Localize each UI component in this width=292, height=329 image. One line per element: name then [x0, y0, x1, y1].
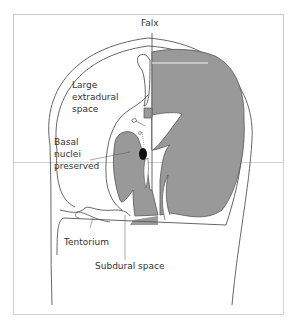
label-subdural-space: Subdural space — [95, 261, 165, 272]
label-falx: Falx — [141, 18, 159, 29]
brain-illustration — [0, 0, 292, 329]
label-extradural-line1: Large — [72, 80, 97, 91]
label-basal-line2: nuclei — [54, 149, 81, 160]
label-tentorium: Tentorium — [64, 237, 109, 248]
diagram: Falx Large extradural space Basal nuclei… — [0, 0, 292, 329]
label-extradural-line2: extradural — [72, 92, 119, 103]
label-extradural-line3: space — [72, 104, 98, 115]
label-basal-line1: Basal — [54, 137, 78, 148]
black-nucleus — [139, 148, 147, 160]
label-basal-line3: preserved — [54, 161, 99, 172]
left-stem — [113, 132, 158, 216]
